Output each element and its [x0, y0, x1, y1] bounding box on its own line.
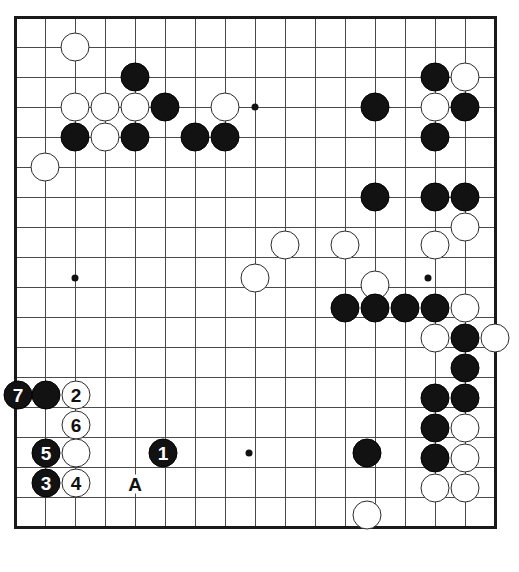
white-stone[interactable] — [451, 414, 480, 443]
grid-line-horizontal — [15, 227, 495, 228]
white-stone[interactable] — [271, 231, 300, 260]
black-stone[interactable] — [361, 294, 390, 323]
white-stone[interactable] — [61, 93, 90, 122]
black-stone[interactable] — [353, 439, 382, 468]
white-stone[interactable] — [331, 231, 360, 260]
black-stone[interactable] — [451, 93, 480, 122]
grid-line-horizontal — [15, 167, 495, 168]
numbered-stone-6[interactable]: 6 — [62, 411, 91, 440]
black-stone[interactable] — [361, 183, 390, 212]
numbered-stone-5[interactable]: 5 — [32, 439, 61, 468]
white-stone[interactable] — [421, 474, 450, 503]
stone-move-number: 4 — [63, 470, 90, 497]
stone-move-number: 2 — [63, 382, 90, 409]
white-stone[interactable] — [421, 93, 450, 122]
white-stone[interactable] — [451, 474, 480, 503]
white-stone[interactable] — [31, 153, 60, 182]
star-point — [72, 275, 79, 282]
numbered-stone-4[interactable]: 4 — [62, 469, 91, 498]
stone-move-number: 3 — [33, 470, 60, 497]
numbered-stone-3[interactable]: 3 — [32, 469, 61, 498]
white-stone[interactable] — [451, 444, 480, 473]
grid-line-horizontal — [15, 377, 495, 378]
board-edge-top — [14, 16, 497, 19]
black-stone[interactable] — [181, 123, 210, 152]
grid-line-vertical — [195, 17, 196, 527]
numbered-stone-1[interactable]: 1 — [149, 439, 178, 468]
black-stone[interactable] — [421, 183, 450, 212]
star-point — [425, 275, 432, 282]
go-board[interactable]: 7265134A — [0, 0, 519, 572]
black-stone[interactable] — [421, 123, 450, 152]
black-stone[interactable] — [451, 384, 480, 413]
grid-line-vertical — [345, 17, 346, 527]
white-stone[interactable] — [211, 93, 240, 122]
black-stone[interactable] — [451, 324, 480, 353]
stone-move-number: 6 — [63, 412, 90, 439]
board-edge-left — [14, 16, 17, 529]
star-point — [252, 104, 259, 111]
white-stone[interactable] — [62, 439, 91, 468]
grid-line-vertical — [405, 17, 406, 527]
board-edge-bottom — [14, 526, 497, 529]
white-stone[interactable] — [481, 324, 510, 353]
black-stone[interactable] — [391, 294, 420, 323]
stone-move-number: 1 — [150, 440, 177, 467]
black-stone[interactable] — [121, 63, 150, 92]
white-stone[interactable] — [91, 93, 120, 122]
white-stone[interactable] — [451, 213, 480, 242]
grid-line-horizontal — [15, 257, 495, 258]
stone-move-number: 7 — [5, 382, 32, 409]
numbered-stone-7[interactable]: 7 — [4, 381, 33, 410]
white-stone[interactable] — [421, 231, 450, 260]
white-stone[interactable] — [121, 93, 150, 122]
black-stone[interactable] — [421, 444, 450, 473]
stone-move-number: 5 — [33, 440, 60, 467]
white-stone[interactable] — [451, 294, 480, 323]
white-stone[interactable] — [241, 264, 270, 293]
black-stone[interactable] — [361, 93, 390, 122]
black-stone[interactable] — [121, 123, 150, 152]
numbered-stone-2[interactable]: 2 — [62, 381, 91, 410]
black-stone[interactable] — [451, 354, 480, 383]
white-stone[interactable] — [451, 63, 480, 92]
black-stone[interactable] — [331, 294, 360, 323]
black-stone[interactable] — [421, 294, 450, 323]
board-edge-right — [494, 16, 497, 529]
white-stone[interactable] — [91, 123, 120, 152]
black-stone[interactable] — [61, 123, 90, 152]
black-stone[interactable] — [421, 414, 450, 443]
star-point — [246, 450, 253, 457]
go-diagram-root: 7265134A — [0, 0, 519, 572]
grid-line-vertical — [285, 17, 286, 527]
white-stone[interactable] — [61, 33, 90, 62]
black-stone[interactable] — [151, 93, 180, 122]
grid-line-vertical — [315, 17, 316, 527]
black-stone[interactable] — [451, 183, 480, 212]
black-stone[interactable] — [421, 384, 450, 413]
white-stone[interactable] — [421, 324, 450, 353]
point-label-a: A — [126, 475, 144, 494]
black-stone[interactable] — [421, 63, 450, 92]
white-stone[interactable] — [353, 501, 382, 530]
black-stone[interactable] — [211, 123, 240, 152]
black-stone[interactable] — [32, 381, 61, 410]
